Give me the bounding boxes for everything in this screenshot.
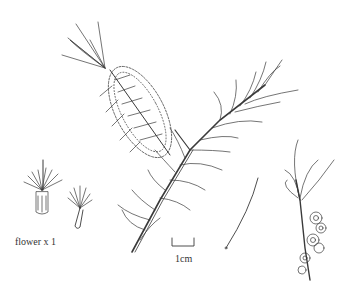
flower-detail-1 bbox=[24, 160, 62, 214]
loose-leaf bbox=[226, 178, 258, 248]
botanical-illustration: flower x 1 1cm bbox=[0, 0, 352, 290]
main-stem bbox=[132, 85, 265, 252]
fruit-branch bbox=[285, 140, 334, 280]
scale-caption: 1cm bbox=[175, 253, 192, 264]
flower-detail-2 bbox=[68, 186, 92, 228]
flower-spike bbox=[95, 57, 184, 168]
scale-bar bbox=[172, 238, 194, 246]
flower-caption: flower x 1 bbox=[15, 236, 56, 247]
